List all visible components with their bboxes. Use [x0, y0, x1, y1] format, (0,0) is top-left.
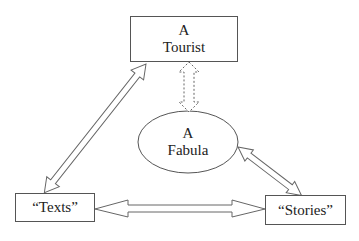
fabula-line1: A — [183, 125, 194, 142]
texts-label: “Texts” — [32, 199, 78, 216]
texts-stories-arrow — [95, 200, 265, 217]
fabula-node: A Fabula — [138, 111, 238, 173]
tourist-line2: Tourist — [163, 39, 205, 56]
tourist-line1: A — [179, 22, 190, 39]
tourist-texts-arrow — [38, 59, 152, 198]
fabula-stories-arrow — [234, 141, 306, 201]
texts-node: “Texts” — [15, 193, 95, 222]
stories-node: “Stories” — [265, 195, 346, 225]
fabula-line2: Fabula — [168, 142, 209, 159]
tourist-fabula-arrow — [179, 62, 199, 112]
tourist-node: A Tourist — [130, 16, 238, 62]
stories-label: “Stories” — [278, 202, 333, 219]
